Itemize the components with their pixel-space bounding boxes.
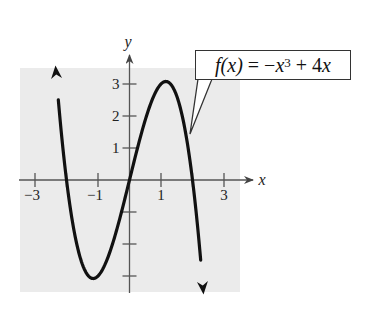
function-label: f(x) = −x3 + 4x <box>195 50 351 80</box>
function-label-lhs: f(x) <box>215 54 243 77</box>
y-tick-label: 1 <box>112 140 120 156</box>
function-label-rest: + 4 <box>291 54 322 77</box>
x-tick-label: 3 <box>220 187 228 203</box>
y-tick-label: 3 <box>112 76 120 92</box>
x-axis-label: x <box>257 171 265 188</box>
function-graph: −3−113123 y x <box>0 0 368 309</box>
function-label-var: x <box>275 54 284 77</box>
function-label-var2: x <box>322 54 331 77</box>
function-label-eq: = − <box>243 54 276 77</box>
x-tick-label: −3 <box>24 187 40 203</box>
x-tick-label: 1 <box>157 187 165 203</box>
y-axis-label: y <box>122 33 132 51</box>
y-tick-label: 2 <box>112 108 120 124</box>
x-tick-label: −1 <box>87 187 103 203</box>
function-label-exponent: 3 <box>284 55 291 71</box>
